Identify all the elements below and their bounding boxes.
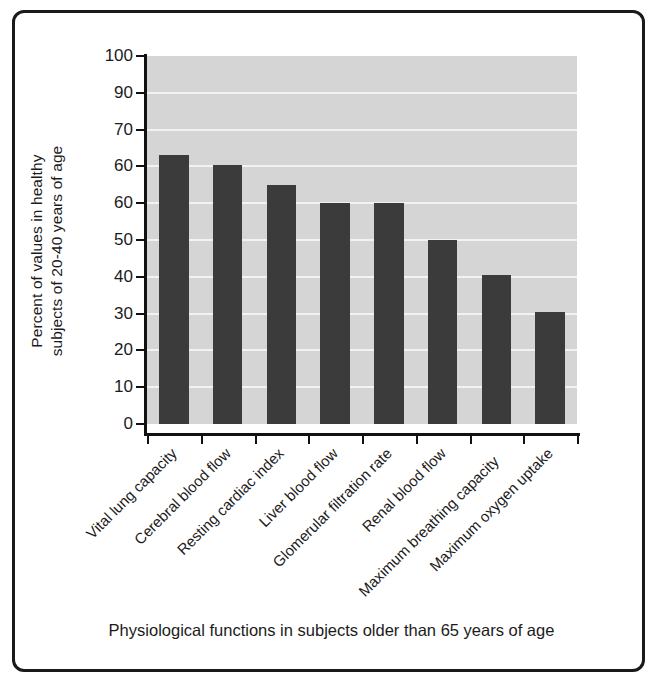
y-axis-tick-label: 60 xyxy=(87,157,133,174)
bars-layer xyxy=(147,56,577,424)
y-axis-title-line-2: subjects of 20-40 years of age xyxy=(47,71,67,431)
y-axis-tick xyxy=(136,129,145,131)
bar xyxy=(535,312,565,424)
y-axis-tick xyxy=(136,276,145,278)
y-axis-tick-label: 90 xyxy=(87,84,133,101)
y-axis-tick xyxy=(136,239,145,241)
y-axis-tick xyxy=(136,202,145,204)
bar xyxy=(159,155,189,424)
bar xyxy=(213,165,243,424)
figure-frame: Percent of values in healthy subjects of… xyxy=(12,10,645,672)
bar xyxy=(320,203,350,424)
bar xyxy=(482,275,512,424)
bar xyxy=(428,240,458,424)
y-axis-tick-label: 0 xyxy=(87,415,133,432)
y-axis-tick xyxy=(136,55,145,57)
x-axis-tick xyxy=(255,435,257,444)
y-axis-tick xyxy=(136,386,145,388)
y-axis-tick-label: 60 xyxy=(87,194,133,211)
x-axis-tick xyxy=(470,435,472,444)
y-axis-tick xyxy=(136,423,145,425)
y-axis-title-line-1: Percent of values in healthy xyxy=(27,71,47,431)
x-axis-category-label: Maximum breathing capacity xyxy=(278,452,502,676)
y-axis-line xyxy=(144,54,147,436)
y-axis-tick xyxy=(136,313,145,315)
y-axis-tick xyxy=(136,349,145,351)
x-axis-tick xyxy=(201,435,203,444)
y-axis-tick-label: 70 xyxy=(87,121,133,138)
x-axis-tick xyxy=(362,435,364,444)
x-axis-tick xyxy=(147,435,149,444)
y-axis-tick xyxy=(136,165,145,167)
x-axis-tick xyxy=(308,435,310,444)
y-axis-tick-label: 30 xyxy=(87,305,133,322)
x-axis-tick xyxy=(523,435,525,444)
x-axis-tick xyxy=(416,435,418,444)
figure-caption: Physiological functions in subjects olde… xyxy=(15,621,648,640)
y-axis-tick-label: 50 xyxy=(87,231,133,248)
y-axis-title: Percent of values in healthy subjects of… xyxy=(27,71,67,431)
bar xyxy=(374,203,404,424)
x-axis-tick xyxy=(577,435,579,444)
y-axis-tick xyxy=(136,92,145,94)
y-axis-tick-labels: 1009070606050403020100 xyxy=(83,13,133,483)
bar xyxy=(267,185,297,424)
y-axis-tick-label: 100 xyxy=(87,47,133,64)
y-axis-tick-label: 20 xyxy=(87,341,133,358)
plot-area xyxy=(147,56,577,424)
y-axis-tick-label: 10 xyxy=(87,378,133,395)
y-axis-tick-label: 40 xyxy=(87,268,133,285)
